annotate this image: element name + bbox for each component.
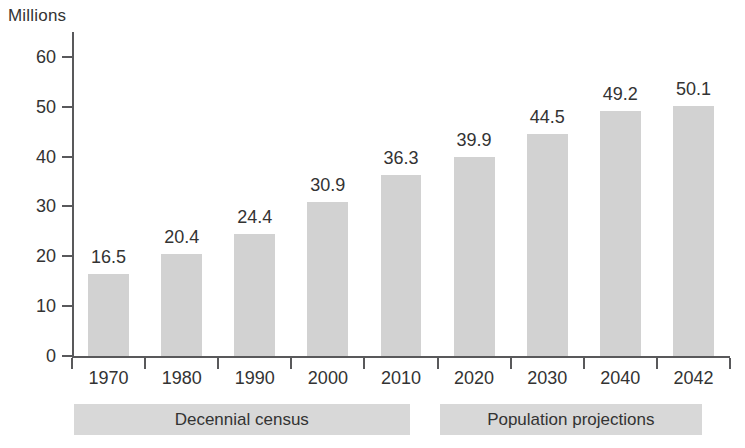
bar[interactable] <box>673 106 714 356</box>
group-band-label: Decennial census <box>74 404 410 435</box>
bar-value-label: 30.9 <box>310 175 345 196</box>
x-axis-label: 1990 <box>218 368 291 389</box>
bar[interactable] <box>161 254 202 356</box>
x-axis-label: 2020 <box>438 368 511 389</box>
bar-value-label: 16.5 <box>91 247 126 268</box>
x-axis-label: 2030 <box>511 368 584 389</box>
bar[interactable] <box>527 134 568 356</box>
y-axis-tick-label: 20 <box>0 246 56 267</box>
bar[interactable] <box>454 157 495 356</box>
y-axis-tick <box>62 56 74 58</box>
bar-value-label: 24.4 <box>237 207 272 228</box>
x-axis-label: 2010 <box>364 368 437 389</box>
y-axis-line <box>72 32 74 358</box>
bar[interactable] <box>307 202 348 356</box>
y-axis-tick-label: 60 <box>0 46 56 67</box>
y-axis-tick-label: 0 <box>0 346 56 367</box>
bar-value-label: 36.3 <box>383 148 418 169</box>
y-axis-tick <box>62 305 74 307</box>
x-axis-label: 2042 <box>657 368 730 389</box>
bar-chart: Millions 0102030405060 16.520.424.430.93… <box>0 0 745 448</box>
bar-value-label: 39.9 <box>457 130 492 151</box>
bar[interactable] <box>234 234 275 356</box>
y-axis-tick <box>62 205 74 207</box>
bar-value-label: 20.4 <box>164 227 199 248</box>
x-axis-label: 2000 <box>291 368 364 389</box>
y-axis-tick-label: 10 <box>0 296 56 317</box>
x-axis-label: 1980 <box>145 368 218 389</box>
y-axis-tick <box>62 355 74 357</box>
y-axis-title: Millions <box>8 6 66 26</box>
bar-value-label: 49.2 <box>603 84 638 105</box>
y-axis-tick <box>62 255 74 257</box>
bar-value-label: 50.1 <box>676 79 711 100</box>
group-band-label: Population projections <box>440 404 702 435</box>
bar-value-label: 44.5 <box>530 107 565 128</box>
y-axis-tick-label: 40 <box>0 146 56 167</box>
x-axis-label: 1970 <box>72 368 145 389</box>
x-axis-label: 2040 <box>584 368 657 389</box>
y-axis-tick <box>62 156 74 158</box>
bar[interactable] <box>600 111 641 356</box>
y-axis-tick <box>62 106 74 108</box>
x-axis-line <box>72 356 730 358</box>
y-axis-tick-label: 30 <box>0 196 56 217</box>
bar[interactable] <box>88 274 129 356</box>
y-axis-tick-label: 50 <box>0 96 56 117</box>
bar[interactable] <box>381 175 422 356</box>
